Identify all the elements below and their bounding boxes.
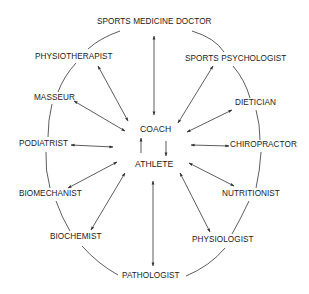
node-chiropractor: CHIROPRACTOR	[230, 141, 297, 149]
node-podiatrist: PODIATRIST	[19, 140, 68, 148]
arc-masseur-podiatrist	[48, 104, 52, 137]
spoke-podiatrist	[71, 145, 113, 147]
node-masseur: MASSEUR	[34, 94, 75, 102]
node-coach: COACH	[140, 125, 171, 134]
node-physiologist: PHYSIOLOGIST	[192, 236, 254, 244]
arc-nutritionist-physiologist	[232, 201, 249, 234]
spoke-biochemist	[91, 173, 125, 230]
node-biomechanist: BIOMECHANIST	[19, 190, 82, 198]
arc-doctor-psychologist	[192, 31, 224, 52]
node-nutritionist: NUTRITIONIST	[222, 190, 280, 198]
node-pathologist: PATHOLOGIST	[122, 272, 180, 280]
spoke-dietician	[187, 110, 232, 132]
arc-physiologist-pathologist	[186, 248, 225, 276]
arc-biomechanist-biochemist	[56, 201, 70, 231]
arc-chiropractor-nutritionist	[256, 152, 261, 188]
spoke-physiologist	[180, 173, 210, 232]
arc-physiotherapist-masseur	[58, 63, 76, 92]
coach-athlete-arrows	[141, 138, 166, 156]
node-physiotherapist: PHYSIOTHERAPIST	[35, 53, 113, 61]
node-dietician: DIETICIAN	[235, 99, 276, 107]
spoke-masseur	[74, 101, 125, 131]
node-athlete: ATHLETE	[135, 160, 173, 169]
arc-biochemist-pathologist	[82, 246, 118, 275]
node-sports-medicine-doctor: SPORTS MEDICINE DOCTOR	[97, 18, 212, 26]
spoke-biomechanist	[68, 162, 117, 188]
spoke-physiotherapist	[98, 66, 128, 121]
arc-psychologist-dietician	[233, 66, 250, 98]
node-biochemist: BIOCHEMIST	[50, 233, 101, 241]
spoke-nutritionist	[189, 163, 234, 186]
node-sports-psychologist: SPORTS PSYCHOLOGIST	[185, 55, 286, 63]
arc-podiatrist-biomechanist	[46, 152, 50, 188]
arc-doctor-physiotherapist	[88, 31, 120, 49]
arc-dietician-chiropractor	[256, 110, 260, 140]
spoke-chiropractor	[191, 145, 229, 146]
spoke-sports-psychologist	[178, 66, 213, 123]
